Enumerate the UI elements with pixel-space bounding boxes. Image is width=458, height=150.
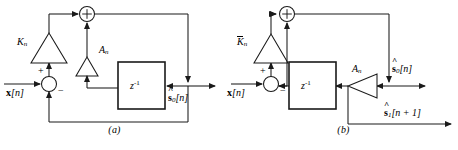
caption-a: (a) [0,124,229,135]
label-b-gain-an: An [352,64,362,75]
sign-a-minus: − [58,86,64,96]
label-a-gain-k: Kn [17,37,27,48]
figure-container: x[n] Kn An z-1 s0[n] + − (a) [0,0,458,150]
diagram-panel-a: x[n] Kn An z-1 s0[n] + − (a) [0,0,229,150]
delay-block-b [289,62,336,109]
label-a-gain-an: An [99,45,109,56]
label-b-input: x[n] [227,88,245,98]
sum-node-b [264,77,279,92]
gain-triangle-b-k [254,34,288,63]
diagram-panel-b: x[n] Kn An z-1 s0[n] s1[n + 1] + − (b) [229,0,458,150]
label-b-output-s1: s1[n + 1] [384,108,421,119]
sign-b-minus: − [280,86,286,96]
gain-triangle-a-k [31,33,67,63]
label-a-input: x[n] [6,88,24,98]
gain-triangle-b-an [348,74,377,98]
label-b-gain-kbar: Kn [237,37,247,48]
label-a-delay: z-1 [130,80,140,91]
label-b-output-s0: s0[n] [392,64,412,75]
label-a-output-s0: s0[n] [168,93,188,104]
caption-b: (b) [229,124,458,135]
gain-triangle-a-an [76,57,98,76]
delay-block-a [118,62,165,109]
sign-a-plus: + [38,66,44,76]
sign-b-plus: + [260,66,266,76]
sum-node-a [42,77,57,92]
label-b-delay: z-1 [301,80,311,91]
